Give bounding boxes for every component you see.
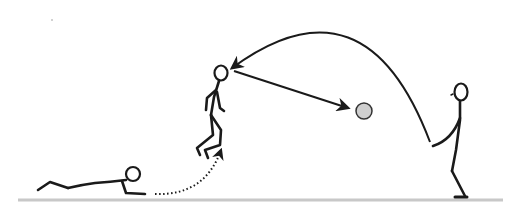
throwing-figure-head xyxy=(455,84,468,101)
jumping-figure-arm-right xyxy=(217,92,224,111)
throwing-figure-nose xyxy=(451,94,453,95)
throw-arc xyxy=(232,32,430,142)
lying-figure-legs xyxy=(38,182,68,190)
jumping-figure xyxy=(197,66,228,159)
header-arrow xyxy=(234,71,348,108)
throwing-figure xyxy=(433,84,468,198)
dotted-rise-path xyxy=(155,150,221,194)
speck xyxy=(51,19,53,21)
lying-figure xyxy=(38,167,145,194)
ball xyxy=(356,103,372,119)
illustration-canvas xyxy=(0,0,523,209)
throwing-figure-leg xyxy=(452,171,465,196)
throwing-figure-torso xyxy=(452,101,460,171)
jumping-figure-head xyxy=(215,66,228,81)
lying-figure-body xyxy=(68,180,126,188)
lying-figure-head xyxy=(126,167,140,181)
lying-figure-arm xyxy=(122,181,145,194)
